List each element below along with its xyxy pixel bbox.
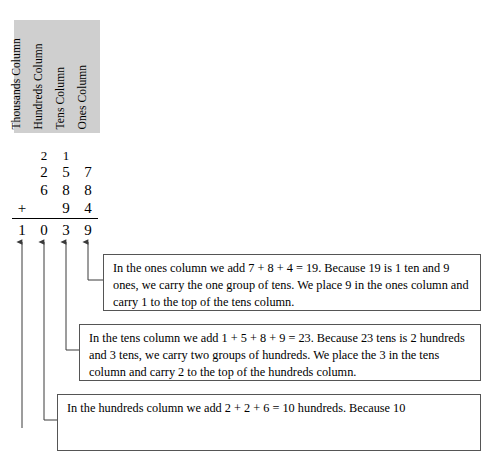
sum-digit-thousands: 1 <box>14 222 30 238</box>
addend1-digit-tens: 5 <box>58 164 74 180</box>
column-addition-problem: 2 1 2 5 7 6 8 8 + 9 4 1 0 3 9 <box>0 148 120 238</box>
column-label-thousands: Thousands Column <box>11 38 23 129</box>
addend2-digit-tens: 8 <box>58 182 74 198</box>
addend3-digit-ones: 4 <box>80 200 96 216</box>
addend1-digit-ones: 7 <box>80 164 96 180</box>
addend1-digit-hundreds: 2 <box>36 164 52 180</box>
explanation-box-tens-column: In the tens column we add 1 + 5 + 8 + 9 … <box>79 324 481 381</box>
sum-digit-hundreds: 0 <box>36 222 52 238</box>
addend2-digit-ones: 8 <box>80 182 96 198</box>
column-label-ones: Ones Column <box>77 64 89 129</box>
arrow-tens-column <box>66 242 79 350</box>
arrow-hundreds-column <box>44 242 57 420</box>
carry-digit-tens: 1 <box>58 148 74 164</box>
column-header-block: Thousands Column Hundreds Column Tens Co… <box>14 20 100 133</box>
addend3-digit-tens: 9 <box>58 200 74 216</box>
column-label-hundreds: Hundreds Column <box>33 43 45 129</box>
sum-horizontal-rule <box>12 218 98 219</box>
explanation-box-ones-column: In the ones column we add 7 + 8 + 4 = 19… <box>103 254 481 311</box>
sum-digit-ones: 9 <box>80 222 96 238</box>
carry-digit-hundreds: 2 <box>36 148 52 164</box>
column-label-tens: Tens Column <box>55 66 67 129</box>
arrow-ones-column <box>88 242 103 280</box>
addend2-digit-hundreds: 6 <box>36 182 52 198</box>
plus-operator: + <box>14 200 30 216</box>
explanation-box-hundreds-column: In the hundreds column we add 2 + 2 + 6 … <box>57 394 481 451</box>
sum-digit-tens: 3 <box>58 222 74 238</box>
